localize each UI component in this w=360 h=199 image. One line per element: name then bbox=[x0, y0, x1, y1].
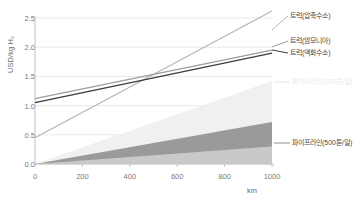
legend-item: 트럭(암모니아) bbox=[290, 37, 331, 45]
x-tick-label: 200 bbox=[76, 172, 89, 181]
legend-item: 트럭(액화수소) bbox=[290, 49, 331, 57]
x-tick-label: 0 bbox=[33, 172, 37, 181]
x-axis-title: km bbox=[247, 186, 257, 195]
line-series bbox=[35, 50, 272, 98]
legend-item: 트럭(압축수소) bbox=[290, 12, 331, 20]
legend-item-label: 트럭(압축수소) bbox=[290, 12, 331, 20]
legend-item: 파이프라인(500톤/일) bbox=[292, 139, 352, 147]
chart-container: USD/kg H₂ 0.00.51.01.52.02.5 02004006008… bbox=[0, 0, 360, 199]
plot-area bbox=[0, 0, 360, 199]
x-tick-label: 1000 bbox=[264, 172, 281, 181]
legend-leader-line bbox=[272, 16, 288, 30]
legend-item: 파이프라인(100톤/일) bbox=[292, 78, 352, 86]
legend-item-label: 파이프라인(100톤/일) bbox=[292, 78, 352, 86]
x-tick-label: 600 bbox=[171, 172, 184, 181]
x-tick-label: 800 bbox=[218, 172, 231, 181]
legend-item-label: 파이프라인(500톤/일) bbox=[292, 139, 352, 147]
x-axis-ticks: 02004006008001000 bbox=[0, 172, 360, 186]
legend-item-label: 트럭(암모니아) bbox=[290, 37, 331, 45]
x-tick-label: 400 bbox=[124, 172, 137, 181]
legend-item-label: 트럭(액화수소) bbox=[290, 49, 331, 57]
legend-leader-line bbox=[272, 41, 288, 47]
legend-leader-line bbox=[272, 50, 288, 53]
